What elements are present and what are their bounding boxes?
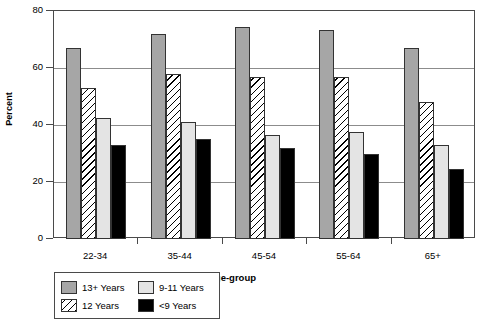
bar: [319, 30, 334, 239]
y-tick-mark: [46, 67, 53, 68]
x-tick-label: 22-34: [60, 250, 130, 261]
bar: [96, 118, 111, 239]
bar: [66, 48, 81, 239]
legend-label: 13+ Years: [82, 282, 125, 293]
legend-swatch: [138, 299, 154, 312]
x-tick-mark: [391, 238, 392, 244]
y-tick-label: 20: [32, 174, 43, 187]
bar: [364, 154, 379, 240]
y-tick-label: 80: [32, 3, 43, 16]
plot-area: [53, 10, 475, 238]
bar: [449, 169, 464, 239]
bar: [419, 102, 434, 239]
bar: [434, 145, 449, 239]
legend-swatch: [138, 281, 154, 294]
y-tick-label: 0: [38, 231, 43, 244]
legend-item: 13+ Years: [61, 278, 138, 296]
legend-label: 9-11 Years: [159, 282, 204, 293]
legend-label: 12 Years: [82, 300, 119, 311]
legend-item: 12 Years: [61, 296, 138, 314]
bar: [334, 77, 349, 239]
bar: [265, 135, 280, 239]
y-axis-title: Percent: [4, 79, 14, 139]
legend-label: <9 Years: [159, 300, 196, 311]
x-tick-mark: [137, 238, 138, 244]
legend-item: 9-11 Years: [138, 278, 215, 296]
bar: [151, 34, 166, 239]
legend-item: <9 Years: [138, 296, 215, 314]
bar: [111, 145, 126, 239]
bar: [81, 88, 96, 239]
x-tick-label: 35-44: [145, 250, 215, 261]
x-tick-label: 65+: [398, 250, 468, 261]
legend-swatch: [61, 299, 77, 312]
x-tick-label: 45-54: [229, 250, 299, 261]
bar: [181, 122, 196, 239]
bar: [404, 48, 419, 239]
bar-chart: Percent 020406080 22-3435-4445-5455-6465…: [0, 0, 482, 325]
y-tick-mark: [46, 10, 53, 11]
y-tick-mark: [46, 124, 53, 125]
bar: [235, 27, 250, 239]
bar: [250, 77, 265, 239]
bar: [196, 139, 211, 239]
y-tick-label: 60: [32, 60, 43, 73]
x-tick-label: 55-64: [313, 250, 383, 261]
legend-swatch: [61, 281, 77, 294]
bar: [280, 148, 295, 239]
legend: 13+ Years9-11 Years12 Years<9 Years: [54, 272, 220, 319]
bar: [166, 74, 181, 239]
x-tick-mark: [306, 238, 307, 244]
y-tick-mark: [46, 181, 53, 182]
x-axis-title: Age-group: [208, 272, 328, 283]
y-tick-label: 40: [32, 117, 43, 130]
bar: [349, 132, 364, 239]
y-tick-mark: [46, 238, 53, 239]
legend-items: 13+ Years9-11 Years12 Years<9 Years: [61, 278, 215, 314]
x-tick-mark: [222, 238, 223, 244]
